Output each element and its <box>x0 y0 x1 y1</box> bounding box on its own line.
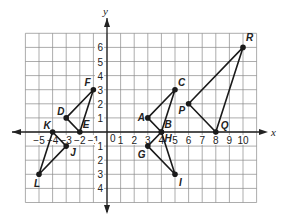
y-tick-label: 4 <box>97 71 103 82</box>
x-tick-label: 8 <box>213 135 219 146</box>
vertex-point-a <box>145 115 151 121</box>
y-tick-label: 3 <box>97 85 103 96</box>
x-tick-label: 5 <box>172 135 178 146</box>
vertex-label-e: E <box>83 119 90 130</box>
vertex-label-l: L <box>34 178 40 189</box>
y-axis-down-arrow-icon <box>104 205 110 214</box>
y-tick-label: 2 <box>97 155 103 166</box>
y-tick-label: 1 <box>97 141 103 152</box>
coordinate-plane-figure: xy −5−4−3−2−11234567891006543211234 DEFK… <box>0 0 283 223</box>
x-axis-left-arrow-icon <box>12 129 21 135</box>
vertex-point-l <box>36 172 42 178</box>
vertex-point-c <box>172 87 178 93</box>
vertex-label-j: J <box>70 147 76 158</box>
vertex-label-d: D <box>57 106 64 117</box>
x-tick-label: 10 <box>237 135 249 146</box>
x-tick-label: −2 <box>74 135 86 146</box>
axes: xy <box>12 5 276 214</box>
vertex-point-j <box>63 143 69 149</box>
x-tick-label: 9 <box>227 135 233 146</box>
vertex-label-k: K <box>44 120 52 131</box>
x-tick-label: 1 <box>118 135 124 146</box>
vertex-label-c: C <box>178 77 186 88</box>
vertex-point-f <box>91 87 97 93</box>
vertex-points: DEFKJLABCHGIPQR <box>34 32 254 189</box>
vertex-label-a: A <box>137 112 145 123</box>
vertex-label-h: H <box>164 133 172 144</box>
vertex-point-g <box>145 143 151 149</box>
x-axis-label: x <box>270 126 276 138</box>
vertex-point-i <box>172 172 178 178</box>
vertex-point-h <box>159 129 165 135</box>
vertex-point-r <box>240 45 246 51</box>
x-tick-label: 2 <box>131 135 137 146</box>
y-tick-label: 6 <box>97 42 103 53</box>
y-tick-label: 1 <box>97 113 103 124</box>
y-tick-label: 3 <box>97 169 103 180</box>
origin-label: 0 <box>110 133 116 144</box>
vertex-point-q <box>213 129 219 135</box>
vertex-label-r: R <box>246 32 254 43</box>
y-axis-label: y <box>102 5 108 17</box>
x-axis-right-arrow-icon <box>259 129 268 135</box>
y-axis-up-arrow-icon <box>104 18 110 27</box>
vertex-label-b: B <box>164 119 171 130</box>
x-tick-label: 6 <box>186 135 192 146</box>
x-tick-label: −5 <box>33 135 45 146</box>
vertex-label-p: P <box>179 105 186 116</box>
vertex-point-p <box>186 101 192 107</box>
vertex-label-f: F <box>84 77 91 88</box>
vertex-label-q: Q <box>221 120 229 131</box>
x-tick-label: 7 <box>199 135 205 146</box>
y-tick-label: 2 <box>97 99 103 110</box>
vertex-label-i: I <box>179 177 182 188</box>
y-tick-label: 4 <box>97 183 103 194</box>
vertex-point-e <box>77 129 83 135</box>
y-tick-label: 5 <box>97 57 103 68</box>
vertex-label-g: G <box>138 149 146 160</box>
